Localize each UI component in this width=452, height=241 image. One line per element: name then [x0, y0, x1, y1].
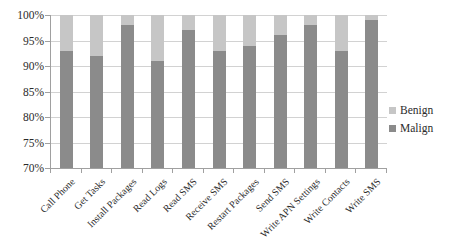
bar-malign: [121, 25, 134, 168]
legend: Benign Malign: [389, 101, 433, 137]
y-tick-label: 100%: [17, 8, 44, 22]
bar-malign: [213, 51, 226, 168]
bar-benign: [60, 15, 73, 51]
bar-malign: [335, 51, 348, 168]
y-tick-label: 90%: [23, 59, 44, 73]
x-tick: [81, 169, 82, 173]
bar-malign: [243, 46, 256, 168]
y-tick: [45, 117, 50, 118]
y-tick-label: 95%: [23, 34, 44, 48]
x-tick: [325, 169, 326, 173]
bar-benign: [182, 15, 195, 30]
bar-benign: [335, 15, 348, 51]
legend-swatch-malign-icon: [389, 125, 396, 132]
x-tick: [203, 169, 204, 173]
x-tick: [264, 169, 265, 173]
bar-malign: [365, 20, 378, 168]
y-tick: [45, 66, 50, 67]
legend-item-malign: Malign: [389, 119, 433, 137]
y-tick: [45, 92, 50, 93]
y-tick-label: 75%: [23, 136, 44, 150]
y-tick: [45, 41, 50, 42]
x-tick: [294, 169, 295, 173]
x-tick: [233, 169, 234, 173]
x-tick: [172, 169, 173, 173]
y-tick-label: 80%: [23, 110, 44, 124]
bar-malign: [90, 56, 103, 168]
x-category-label: Call Phone: [38, 176, 77, 215]
bar-benign: [274, 15, 287, 35]
bar-benign: [365, 15, 378, 20]
bar-benign: [121, 15, 134, 25]
x-tick: [355, 169, 356, 173]
bar-benign: [243, 15, 256, 46]
y-tick-label: 70%: [23, 161, 44, 175]
bar-benign: [90, 15, 103, 56]
bar-malign: [182, 30, 195, 168]
y-tick: [45, 15, 50, 16]
x-tick: [111, 169, 112, 173]
x-tick: [386, 169, 387, 173]
legend-swatch-benign-icon: [389, 107, 396, 114]
bar-benign: [213, 15, 226, 51]
bar-malign: [304, 25, 317, 168]
legend-label-benign: Benign: [400, 104, 433, 116]
y-tick: [45, 143, 50, 144]
bar-malign: [274, 35, 287, 168]
x-tick: [50, 169, 51, 173]
legend-item-benign: Benign: [389, 101, 433, 119]
bar-benign: [151, 15, 164, 61]
bar-malign: [60, 51, 73, 168]
x-tick: [142, 169, 143, 173]
bar-benign: [304, 15, 317, 25]
plot-area: [50, 15, 387, 169]
legend-label-malign: Malign: [400, 122, 433, 134]
bar-malign: [151, 61, 164, 168]
stacked-bar-chart: 70%75%80%85%90%95%100% Call PhoneGet Tas…: [0, 0, 452, 241]
y-tick-label: 85%: [23, 85, 44, 99]
